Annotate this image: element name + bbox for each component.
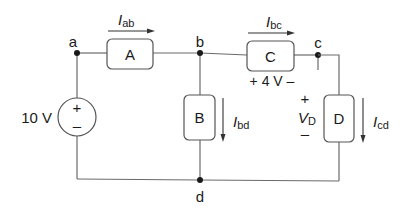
circuit-wire-overlay [0, 0, 405, 213]
wire-c-to-D-box [318, 55, 339, 95]
